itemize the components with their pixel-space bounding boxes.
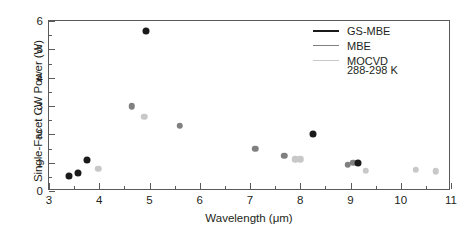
data-point [362,167,369,174]
data-point [355,159,362,166]
data-point [74,170,81,177]
x-tick-label: 6 [197,194,203,206]
data-point [297,156,304,163]
x-tick-major [351,183,352,189]
legend-item-gs-mbe: GS-MBE [313,23,433,38]
x-tick-minor [74,186,75,189]
legend: GS-MBEMBEMOCVD [313,23,433,68]
scatter-chart-figure: Single-Facet CW Power (W) 0123456 345678… [0,0,476,237]
temperature-annotation: 288-298 K [347,64,398,76]
y-tick-major [49,21,55,22]
legend-label: GS-MBE [347,25,390,37]
data-point [281,152,288,159]
x-tick-major [49,183,50,189]
x-tick-major [300,183,301,189]
y-tick-label: 4 [37,72,43,84]
y-tick-minor [49,177,52,178]
data-point [95,166,102,173]
data-point [141,114,148,121]
y-tick-label: 3 [37,100,43,112]
x-tick-label: 4 [96,194,102,206]
data-point [142,27,149,34]
x-tick-label: 10 [394,194,407,206]
data-point [66,173,73,180]
data-point [309,131,316,138]
y-tick-major [49,191,55,192]
legend-swatch [313,30,339,32]
y-tick-major [49,78,55,79]
y-tick-label: 2 [37,128,43,140]
y-tick-major [49,49,55,50]
x-tick-major [150,183,151,189]
y-tick-label: 5 [37,43,43,55]
legend-swatch [313,60,339,61]
y-tick-minor [49,149,52,150]
legend-label: MBE [347,40,371,52]
y-tick-minor [49,35,52,36]
y-tick-minor [49,64,52,65]
x-axis-title: Wavelength (μm) [48,212,450,224]
y-tick-minor [49,92,52,93]
y-tick-label: 0 [37,185,43,197]
data-point [252,145,259,152]
legend-item-mbe: MBE [313,38,433,53]
x-tick-label: 3 [46,194,52,206]
x-tick-minor [175,186,176,189]
x-tick-label: 5 [146,194,152,206]
data-point [413,167,420,174]
x-tick-minor [124,186,125,189]
x-tick-major [250,183,251,189]
y-tick-label: 6 [37,15,43,27]
x-tick-label: 9 [347,194,353,206]
legend-swatch [313,45,339,46]
x-tick-label: 7 [247,194,253,206]
x-tick-minor [275,186,276,189]
data-point [433,168,440,175]
y-tick-major [49,134,55,135]
y-tick-label: 1 [37,157,43,169]
x-tick-major [200,183,201,189]
x-tick-label: 11 [445,194,457,206]
x-tick-label: 8 [297,194,303,206]
y-tick-major [49,163,55,164]
data-point [83,156,90,163]
x-tick-major [99,183,100,189]
data-point [176,123,183,130]
x-tick-minor [225,186,226,189]
data-point [129,103,136,110]
y-tick-major [49,106,55,107]
x-tick-major [401,183,402,189]
x-tick-minor [426,186,427,189]
x-tick-major [451,183,452,189]
x-tick-minor [325,186,326,189]
y-tick-minor [49,120,52,121]
x-tick-minor [376,186,377,189]
